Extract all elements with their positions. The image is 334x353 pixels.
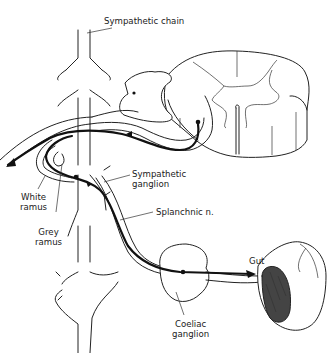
gut-section	[258, 242, 326, 331]
label-coeliac-ganglion-line1: Coeliac	[172, 319, 209, 329]
label-sympathetic-chain: Sympathetic chain	[104, 16, 184, 26]
sympathetic-chain	[55, 30, 118, 353]
label-gut: Gut	[249, 256, 264, 266]
label-grey-ramus-line2: ramus	[35, 237, 62, 247]
label-splanchnic-nerve: Splanchnic n.	[156, 207, 214, 217]
label-grey-ramus-line1: Grey	[35, 227, 62, 237]
spinal-cord-section	[164, 51, 309, 158]
label-grey-ramus: Grey ramus	[35, 227, 62, 247]
label-sympathetic-ganglion-line2: ganglion	[132, 179, 186, 189]
label-white-ramus-line2: ramus	[20, 202, 47, 212]
label-coeliac-ganglion: Coeliac ganglion	[172, 319, 209, 339]
label-white-ramus: White ramus	[20, 192, 47, 212]
label-coeliac-ganglion-line2: ganglion	[172, 329, 209, 339]
splanchnic-nerve-bundle	[96, 176, 262, 301]
label-sympathetic-ganglion-line1: Sympathetic	[132, 169, 186, 179]
label-sympathetic-ganglion: Sympathetic ganglion	[132, 169, 186, 189]
label-white-ramus-line1: White	[20, 192, 47, 202]
